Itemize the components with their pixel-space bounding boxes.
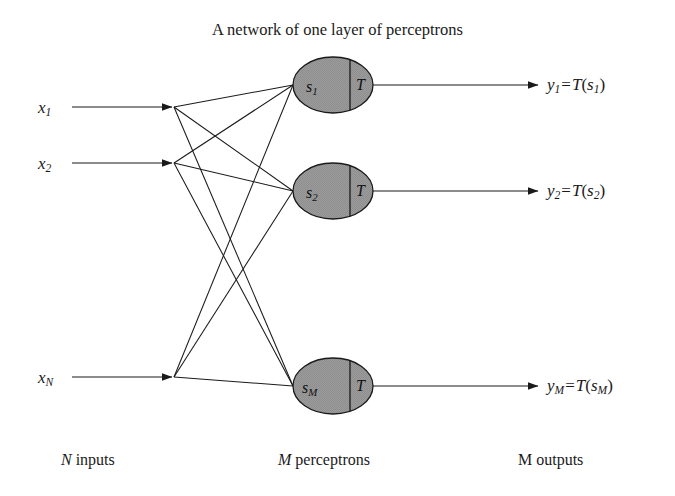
perceptron-1-sum-label: s1 xyxy=(306,79,318,97)
input-label-x2: x2 xyxy=(38,155,51,175)
edge-xN-to-p1 xyxy=(174,85,293,377)
perceptron-2-threshold-label: T xyxy=(356,183,365,199)
edge-x2-to-pM xyxy=(174,163,293,386)
edge-xN-to-p2 xyxy=(174,191,293,377)
output-label-yM: yM=T(sM) xyxy=(547,377,613,397)
perceptron-M-threshold-label: T xyxy=(356,378,365,394)
perceptron-network-figure: A network of one layer of perceptrons xyxy=(0,0,675,496)
caption-perceptrons: M perceptrons xyxy=(278,451,370,469)
output-label-y2: y2=T(s2) xyxy=(547,182,605,202)
input-label-x1: x1 xyxy=(38,99,51,119)
edge-x2-to-p2 xyxy=(174,163,293,191)
perceptron-1-threshold-label: T xyxy=(356,77,365,93)
perceptron-2-sum-label: s2 xyxy=(306,185,318,203)
edge-x1-to-p1 xyxy=(174,85,293,107)
edge-xN-to-pM xyxy=(174,377,293,386)
edge-x2-to-p1 xyxy=(174,85,293,163)
caption-inputs: N inputs xyxy=(61,451,115,469)
caption-outputs: M outputs xyxy=(518,451,583,469)
perceptron-M-sum-label: sM xyxy=(302,380,317,398)
output-label-y1: y1=T(s1) xyxy=(547,76,605,96)
input-label-xN: xN xyxy=(38,369,53,389)
perceptron-shapes xyxy=(293,57,373,414)
